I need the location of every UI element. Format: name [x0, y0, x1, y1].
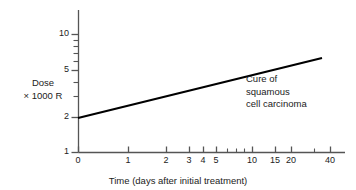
- x-tick-label: 0: [66, 155, 90, 165]
- y-tick-label: 2: [47, 111, 69, 121]
- series-annotation-line3: cell carcinoma: [246, 98, 350, 111]
- y-axis-tick-marks: [72, 35, 79, 153]
- x-axis-title: Time (days after initial treatment): [0, 170, 356, 188]
- x-tick-label: 20: [279, 155, 303, 165]
- y-tick-label: 10: [47, 28, 69, 38]
- x-tick-label: 5: [204, 155, 228, 165]
- x-axis-tick-marks: [79, 147, 331, 153]
- x-tick-label: 40: [318, 155, 342, 165]
- chart-figure: 12510 01234510152040 Dose × 1000 R Cure …: [0, 0, 356, 190]
- x-tick-label: 1: [116, 155, 140, 165]
- y-axis-title: Dose × 1000 R: [14, 76, 72, 102]
- series-annotation: Cure of squamous cell carcinoma: [246, 73, 350, 111]
- x-axis-title-text: Time (days after initial treatment): [109, 175, 248, 186]
- y-axis-title-line2: × 1000 R: [14, 89, 72, 102]
- x-tick-label: 10: [240, 155, 264, 165]
- y-tick-label: 5: [47, 64, 69, 74]
- y-axis-title-line1: Dose: [14, 76, 72, 89]
- x-tick-label: 2: [154, 155, 178, 165]
- series-annotation-line1: Cure of: [246, 73, 350, 86]
- series-annotation-line2: squamous: [246, 86, 350, 99]
